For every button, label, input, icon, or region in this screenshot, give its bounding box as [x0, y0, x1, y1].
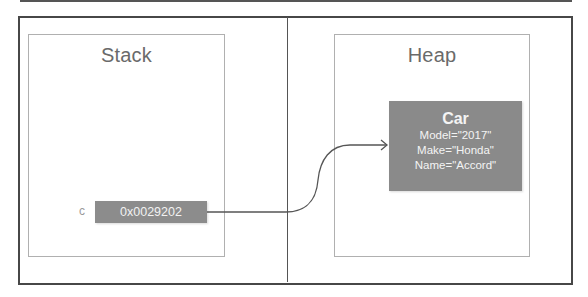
heap-title: Heap [335, 44, 529, 67]
stack-title: Stack [29, 44, 224, 67]
object-field-model: Model="2017" [389, 128, 522, 143]
object-field-name: Name="Accord" [389, 158, 522, 173]
object-field-make: Make="Honda" [389, 143, 522, 158]
reference-address-box: 0x0029202 [95, 201, 207, 223]
car-object-box: Car Model="2017" Make="Honda" Name="Acco… [389, 101, 522, 191]
object-type-title: Car [389, 110, 522, 128]
top-rule [20, 0, 572, 2]
stack-region: Stack [28, 34, 225, 257]
variable-name-label: c [79, 204, 85, 218]
stack-heap-divider [287, 17, 288, 282]
